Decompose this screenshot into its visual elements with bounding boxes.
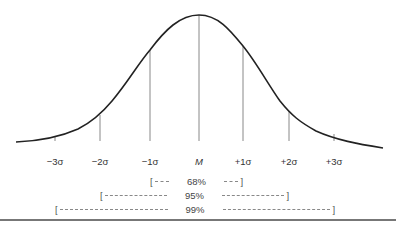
tick-label-plus2: +2σ [281, 156, 298, 167]
range-68-dash-right [224, 181, 238, 182]
tick-label-mean: M [195, 156, 203, 167]
range-68-dash-left [155, 181, 169, 182]
bottom-divider [0, 219, 396, 221]
range-99-close: ] [332, 204, 335, 215]
range-68-open: [ [150, 176, 153, 187]
range-99-open: [ [55, 204, 58, 215]
range-68-close: ] [240, 176, 243, 187]
range-95-dash-left [105, 195, 167, 196]
range-95-dash-right [222, 195, 284, 196]
range-99-label: 99% [170, 204, 221, 215]
tick-label-minus2: −2σ [92, 156, 109, 167]
tick-label-minus1: −1σ [142, 156, 159, 167]
range-95: [ 95% ] [100, 189, 289, 201]
range-99: [ 99% ] [55, 203, 335, 215]
range-95-label: 95% [169, 190, 220, 201]
range-68: [ 68% ] [150, 175, 243, 187]
range-95-open: [ [100, 190, 103, 201]
tick-label-plus3: +3σ [326, 156, 343, 167]
range-68-label: 68% [171, 176, 222, 187]
range-99-dash-right [223, 209, 331, 210]
tick-label-minus3: −3σ [47, 156, 64, 167]
range-95-close: ] [286, 190, 289, 201]
range-99-dash-left [60, 209, 168, 210]
tick-label-plus1: +1σ [235, 156, 252, 167]
